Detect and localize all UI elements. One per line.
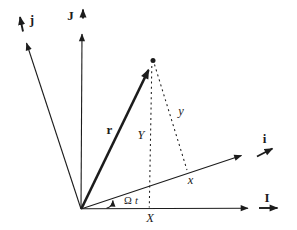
label-X-coordinate: X: [145, 211, 155, 225]
label-Y-coordinate: Y: [138, 128, 147, 142]
label-angle-omega: Ω: [124, 195, 132, 206]
unit-vector-j-arrow: [20, 17, 23, 32]
axis-j-line: [27, 43, 82, 209]
label-i-unit: i: [263, 131, 267, 146]
unit-vector-i-arrow: [257, 149, 273, 157]
label-I-unit: I: [264, 190, 269, 205]
point-marker-dot: [151, 58, 156, 63]
label-y-coordinate: y: [176, 104, 184, 118]
label-x-coordinate: x: [187, 173, 194, 187]
label-j-unit: j: [29, 12, 34, 27]
label-r-vector: r: [107, 122, 113, 137]
label-angle-t: t: [135, 195, 139, 206]
diagram-canvas: j J i I r Y y x X Ω t: [0, 0, 297, 230]
rotating-frame-diagram: j J i I r Y y x X Ω t: [0, 0, 297, 230]
axis-I-line: [81, 208, 248, 209]
axis-i-line: [81, 156, 242, 210]
label-J-unit: J: [67, 8, 74, 23]
angle-arc-arrow: [107, 201, 113, 209]
axis-J-line: [81, 34, 82, 209]
